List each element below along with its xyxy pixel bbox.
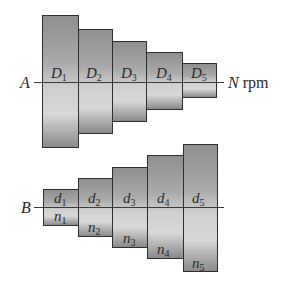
label-n4: n4 — [157, 242, 170, 259]
bottom-step-5 — [183, 144, 218, 272]
speed-label-top: N rpm — [228, 75, 268, 91]
label-D4: D4 — [156, 66, 172, 83]
label-d3: d3 — [123, 191, 136, 208]
label-n2: n2 — [88, 220, 101, 237]
label-d5: d5 — [192, 191, 205, 208]
label-d1: d1 — [54, 191, 67, 208]
label-d2: d2 — [88, 191, 101, 208]
label-D2: D2 — [86, 66, 102, 83]
label-n3: n3 — [123, 231, 136, 248]
label-D5: D5 — [191, 66, 207, 83]
label-d4: d4 — [157, 191, 170, 208]
label-n1: n1 — [54, 209, 67, 226]
shaft-a-label: A — [20, 75, 30, 91]
label-n5: n5 — [192, 256, 205, 273]
label-D1: D1 — [51, 66, 67, 83]
shaft-b-label: B — [21, 200, 31, 216]
label-D3: D3 — [121, 66, 137, 83]
